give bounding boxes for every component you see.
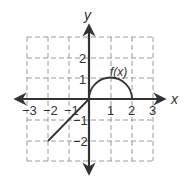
y-tick: 2 [79, 51, 86, 66]
x-tick: 3 [149, 103, 156, 118]
x-tick: 2 [128, 103, 135, 118]
y-axis-label: y [83, 7, 92, 23]
y-tick: 1 [79, 72, 86, 87]
x-tick: −2 [43, 103, 58, 118]
x-axis-label: x [170, 91, 179, 107]
x-tick: 1 [107, 103, 114, 118]
x-tick: −3 [22, 103, 37, 118]
function-graph: x y f(x) −3 −2 −1 1 2 3 2 1 −1 −2 [0, 0, 189, 179]
axes [16, 26, 164, 173]
y-tick: −1 [73, 113, 88, 128]
function-label: f(x) [110, 65, 127, 79]
y-tick: −2 [73, 134, 88, 149]
